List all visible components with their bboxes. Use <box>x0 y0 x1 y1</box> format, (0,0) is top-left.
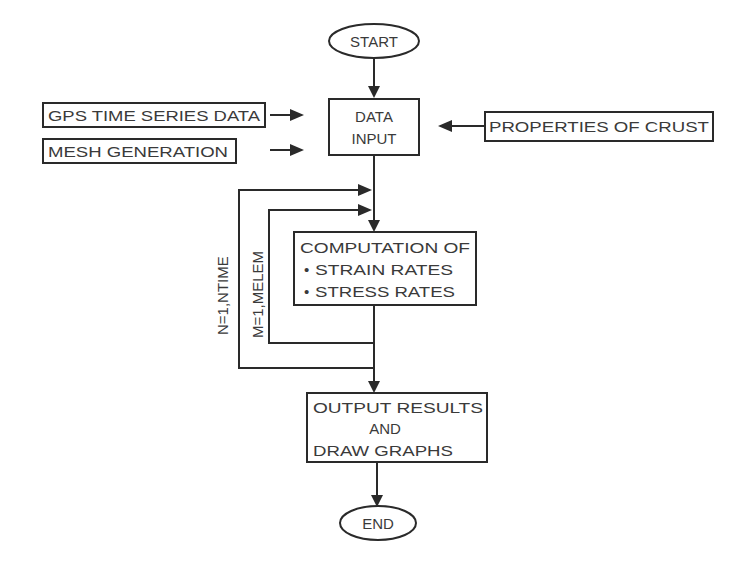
arrow-input-to-computation <box>368 155 380 232</box>
arrow-output-to-end <box>371 462 383 507</box>
arrow-computation-to-output <box>368 305 380 393</box>
end-label: END <box>362 515 394 532</box>
computation-title: COMPUTATION OF <box>300 239 470 256</box>
mesh-generation-node: MESH GENERATION <box>43 139 236 163</box>
data-input-node: DATA INPUT <box>329 99 419 155</box>
arrow-start-to-input <box>368 58 380 98</box>
crust-properties-label: PROPERTIES OF CRUST <box>489 118 709 135</box>
output-line3: DRAW GRAPHS <box>313 442 453 459</box>
flowchart: START GPS TIME SERIES DATA MESH GENERATI… <box>0 0 749 570</box>
arrow-crust-to-input <box>438 120 484 132</box>
gps-data-node: GPS TIME SERIES DATA <box>43 103 265 127</box>
stress-rates-label: STRESS RATES <box>315 283 455 300</box>
output-line2: AND <box>369 420 401 437</box>
data-input-line1: DATA <box>355 108 393 125</box>
bullet-icon: • <box>304 283 309 300</box>
bullet-icon: • <box>304 261 309 278</box>
end-node: END <box>340 506 416 540</box>
gps-data-label: GPS TIME SERIES DATA <box>48 107 260 124</box>
arrow-gps-to-input <box>270 109 304 121</box>
output-line1: OUTPUT RESULTS <box>313 399 483 416</box>
crust-properties-node: PROPERTIES OF CRUST <box>485 112 713 141</box>
output-node: OUTPUT RESULTS AND DRAW GRAPHS <box>307 393 487 462</box>
computation-node: COMPUTATION OF • STRAIN RATES • STRESS R… <box>294 232 476 305</box>
inner-loop-label: M=1,MELEM <box>249 251 266 338</box>
strain-rates-label: STRAIN RATES <box>315 261 453 278</box>
outer-loop-label: N=1,NTIME <box>214 256 231 335</box>
mesh-generation-label: MESH GENERATION <box>48 143 228 160</box>
start-label: START <box>350 33 398 50</box>
start-node: START <box>329 24 419 58</box>
data-input-line2: INPUT <box>352 130 397 147</box>
arrow-mesh-to-input <box>270 144 304 156</box>
